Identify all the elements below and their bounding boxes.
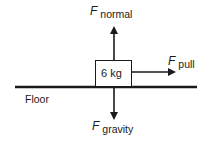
force-subscript: normal (100, 8, 132, 20)
floor-label: Floor (25, 94, 49, 105)
normal-force-label: Fnormal (90, 5, 132, 17)
gravity-force-label: Fgravity (92, 120, 133, 132)
force-symbol: F (90, 4, 97, 18)
force-subscript: pull (178, 58, 194, 70)
pull-force-label: Fpull (168, 55, 195, 67)
block-mass-label: 6 kg (101, 68, 122, 79)
force-symbol: F (168, 54, 175, 68)
force-symbol: F (92, 119, 99, 133)
force-subscript: gravity (102, 123, 133, 135)
